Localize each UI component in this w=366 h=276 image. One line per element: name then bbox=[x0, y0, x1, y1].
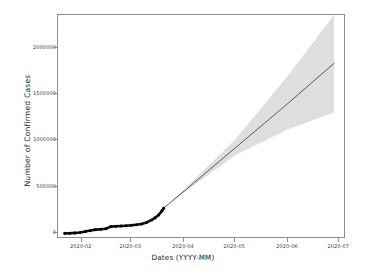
observed-data-point bbox=[157, 214, 160, 217]
observed-data-point bbox=[89, 229, 92, 232]
observed-data-point bbox=[160, 209, 163, 212]
observed-data-point bbox=[99, 228, 102, 231]
x-axis-tick-label: 2020-05 bbox=[214, 243, 254, 249]
observed-data-point bbox=[63, 232, 66, 235]
y-axis-tick-label: 500000 bbox=[0, 183, 56, 189]
x-axis-tick-label: 2020-07 bbox=[318, 243, 358, 249]
y-axis-tick-label: 1000000 bbox=[0, 136, 56, 142]
x-axis-tick-mark bbox=[234, 238, 235, 242]
x-axis-tick-label: 2020-04 bbox=[163, 243, 203, 249]
observed-data-point bbox=[68, 232, 71, 235]
observed-cases-line bbox=[65, 208, 164, 233]
observed-data-point bbox=[120, 225, 123, 228]
observed-data-point bbox=[154, 216, 157, 219]
observed-data-point bbox=[150, 218, 153, 221]
x-axis-tick-mark bbox=[338, 238, 339, 242]
x-axis-tick-mark bbox=[183, 238, 184, 242]
y-axis-tick-label: 1500000 bbox=[0, 90, 56, 96]
x-axis-title: Dates (YYYY-MM) bbox=[0, 253, 366, 262]
x-axis-tick-mark bbox=[81, 238, 82, 242]
confidence-band-group bbox=[164, 15, 334, 208]
observed-series-group bbox=[63, 207, 165, 235]
x-axis-tick-label: 2020-03 bbox=[110, 243, 150, 249]
y-axis-tick-label: 0 bbox=[0, 229, 56, 235]
observed-data-point bbox=[114, 225, 117, 228]
plot-area bbox=[57, 14, 345, 238]
observed-data-point bbox=[79, 231, 82, 234]
observed-data-point bbox=[94, 228, 97, 231]
figure-canvas: Number of Confirmed Cases 05000001000000… bbox=[0, 0, 366, 276]
y-axis-title: Number of Confirmed Cases bbox=[23, 41, 32, 221]
y-axis-tick-label: 2000000 bbox=[0, 44, 56, 50]
observed-data-point bbox=[140, 222, 143, 225]
observed-data-point bbox=[104, 227, 107, 230]
x-axis-tick-label: 2020-02 bbox=[61, 243, 101, 249]
observed-data-point bbox=[125, 224, 128, 227]
observed-data-point bbox=[84, 230, 87, 233]
observed-data-point bbox=[135, 223, 138, 226]
observed-data-point bbox=[145, 221, 148, 224]
x-axis-tick-mark bbox=[130, 238, 131, 242]
observed-data-point bbox=[130, 224, 133, 227]
observed-data-point bbox=[109, 225, 112, 228]
observed-data-point bbox=[74, 231, 77, 234]
x-axis-tick-mark bbox=[287, 238, 288, 242]
prediction-interval-band bbox=[164, 15, 334, 208]
chart-plot-svg bbox=[58, 15, 345, 238]
x-axis-tick-label: 2020-06 bbox=[267, 243, 307, 249]
observed-data-point bbox=[162, 207, 165, 210]
